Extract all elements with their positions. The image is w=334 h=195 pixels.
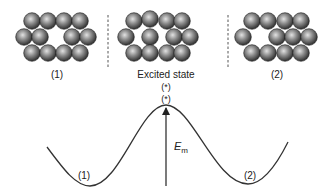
atom-sphere	[56, 45, 73, 62]
atom-sphere	[159, 13, 176, 30]
label-state-1: (1)	[51, 69, 63, 80]
atom-sphere	[126, 13, 143, 30]
atom-sphere	[293, 45, 310, 62]
cluster-state-1	[16, 13, 97, 62]
cluster-state-2	[235, 13, 318, 62]
atom-sphere	[24, 45, 41, 62]
label-state-2: (2)	[271, 69, 283, 80]
atom-sphere	[16, 29, 33, 46]
atom-sphere	[174, 13, 191, 30]
cluster-labels: (1) Excited state (2)	[51, 69, 283, 80]
atom-sphere	[166, 29, 183, 46]
atom-sphere	[277, 45, 294, 62]
atom-sphere	[24, 13, 41, 30]
atom-sphere	[32, 29, 49, 46]
atom-sphere	[244, 13, 261, 30]
atom-sphere	[142, 11, 159, 28]
atom-sphere	[301, 29, 318, 46]
atom-sphere	[244, 45, 261, 62]
atom-sphere	[56, 13, 73, 30]
atom-sphere	[269, 29, 286, 46]
atom-sphere	[72, 13, 89, 30]
atom-sphere	[159, 45, 176, 62]
atom-sphere	[142, 29, 159, 46]
atom-sphere	[235, 29, 252, 46]
atom-sphere	[64, 29, 81, 46]
atom-sphere	[72, 45, 89, 62]
excited-mark-peak: (*)	[161, 94, 171, 104]
atom-sphere	[40, 13, 57, 30]
atom-sphere	[293, 13, 310, 30]
atom-sphere	[285, 29, 302, 46]
energy-subscript: m	[181, 146, 188, 155]
activation-energy-label: Em	[174, 140, 188, 155]
excited-marks: (*) (*)	[161, 82, 171, 104]
atom-sphere	[126, 45, 143, 62]
atom-sphere	[118, 29, 135, 46]
atom-sphere	[182, 29, 199, 46]
label-excited-state: Excited state	[137, 69, 195, 80]
atom-clusters	[16, 11, 318, 62]
atom-sphere	[80, 29, 97, 46]
atom-sphere	[40, 45, 57, 62]
minimum-label-1: (1)	[78, 170, 90, 181]
minimum-label-2: (2)	[244, 170, 256, 181]
atom-sphere	[277, 13, 294, 30]
transition-state-diagram: (1) Excited state (2) (*) (*) Em (1) (2)	[0, 0, 334, 195]
atom-sphere	[142, 45, 159, 62]
atom-sphere	[174, 45, 191, 62]
excited-mark-upper: (*)	[161, 82, 171, 92]
atom-sphere	[260, 13, 277, 30]
atom-sphere	[260, 45, 277, 62]
cluster-excited	[118, 11, 199, 62]
